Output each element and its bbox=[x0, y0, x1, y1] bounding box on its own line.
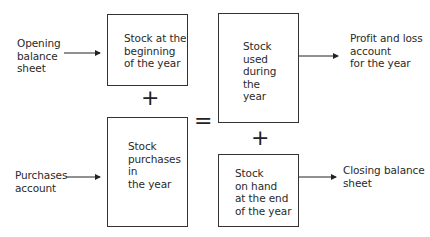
stock-beginning-text: Stock at the beginning of the year bbox=[124, 32, 186, 70]
stock-purchases-box: Stock purchases in the year bbox=[107, 117, 188, 227]
purchases-account-label: Purchases account bbox=[15, 169, 67, 194]
profit-and-loss-label: Profit and loss account for the year bbox=[350, 32, 423, 70]
stock-used-box: Stock used during the year bbox=[218, 13, 299, 123]
stock-purchases-text: Stock purchases in the year bbox=[128, 140, 181, 190]
plus-operator-left: + bbox=[141, 87, 159, 109]
equals-operator: = bbox=[194, 110, 212, 132]
stock-on-hand-box: Stock on hand at the end of the year bbox=[218, 154, 299, 227]
stock-used-text: Stock used during the year bbox=[243, 40, 276, 103]
plus-operator-right: + bbox=[251, 127, 269, 149]
stock-beginning-box: Stock at the beginning of the year bbox=[107, 14, 188, 86]
closing-balance-sheet-label: Closing balance sheet bbox=[343, 164, 425, 189]
opening-balance-sheet-label: Opening balance sheet bbox=[17, 37, 61, 75]
stock-flow-diagram: Opening balance sheet Purchases account … bbox=[0, 0, 430, 237]
stock-on-hand-text: Stock on hand at the end of the year bbox=[235, 167, 291, 217]
